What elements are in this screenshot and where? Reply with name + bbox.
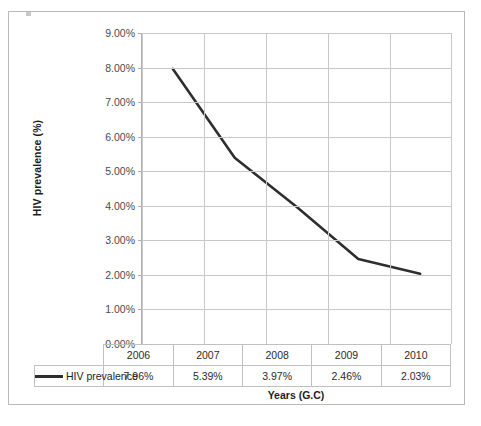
y-gridline — [142, 309, 451, 310]
x-gridline — [328, 33, 329, 344]
table-value-cell: 2.46% — [312, 366, 381, 387]
x-gridline — [204, 33, 205, 344]
y-tick-label: 9.00% — [105, 27, 135, 39]
y-axis-title: HIV prevalence (%) — [31, 88, 43, 248]
y-gridline — [142, 240, 451, 241]
plot-area: 0.00%1.00%2.00%3.00%4.00%5.00%6.00%7.00%… — [141, 33, 451, 344]
y-tick-label: 6.00% — [105, 131, 135, 143]
table-header-row: 2006 2007 2008 2009 2010 — [35, 345, 451, 366]
chart-data-table: 2006 2007 2008 2009 2010 HIV prevalence … — [34, 344, 451, 387]
y-gridline — [142, 275, 451, 276]
y-gridline — [142, 206, 451, 207]
legend-line-swatch-icon — [35, 375, 63, 378]
y-tick-label: 7.00% — [105, 96, 135, 108]
table-value-cell: 5.39% — [173, 366, 242, 387]
x-gridline — [451, 33, 452, 344]
table-header-cell: 2006 — [104, 345, 173, 366]
table-value-cell: 3.97% — [242, 366, 311, 387]
y-gridline — [142, 102, 451, 103]
legend-entry: HIV prevalence — [35, 366, 104, 387]
y-tick-label: 3.00% — [105, 234, 135, 246]
table-corner-cell — [35, 345, 104, 366]
table-header-cell: 2008 — [242, 345, 311, 366]
series-line-chart — [142, 33, 451, 344]
y-tick-label: 4.00% — [105, 200, 135, 212]
x-gridline — [266, 33, 267, 344]
y-tick-label: 2.00% — [105, 269, 135, 281]
scan-artifact — [26, 12, 31, 16]
y-tick-label: 1.00% — [105, 303, 135, 315]
table-header-cell: 2009 — [312, 345, 381, 366]
y-tick-label: 8.00% — [105, 62, 135, 74]
table-row: HIV prevalence 7.96% 5.39% 3.97% 2.46% 2… — [35, 366, 451, 387]
table-value-cell: 2.03% — [381, 366, 450, 387]
chart-frame: HIV prevalence (%) 0.00%1.00%2.00%3.00%4… — [8, 11, 465, 405]
plot-inner: 0.00%1.00%2.00%3.00%4.00%5.00%6.00%7.00%… — [142, 33, 451, 344]
y-gridline — [142, 137, 451, 138]
x-gridline — [390, 33, 391, 344]
y-gridline — [142, 171, 451, 172]
y-gridline — [142, 68, 451, 69]
x-axis-title: Years (G.C) — [141, 389, 451, 401]
x-gridline — [142, 33, 143, 344]
y-tick-label: 5.00% — [105, 165, 135, 177]
table-header-cell: 2007 — [173, 345, 242, 366]
table-header-cell: 2010 — [381, 345, 450, 366]
y-gridline — [142, 33, 451, 34]
